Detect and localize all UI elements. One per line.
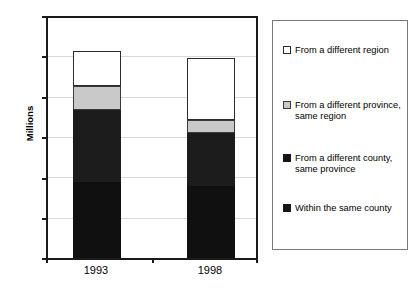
x-tick-label-1998: 1998 <box>180 264 240 276</box>
bar-1998-segment-within-same-county[interactable] <box>187 186 235 258</box>
plot-area <box>46 16 258 260</box>
bar-1993-segment-different-province[interactable] <box>73 86 121 110</box>
x-tick-mark-left <box>46 258 48 263</box>
bar-1998-segment-different-province[interactable] <box>187 120 235 133</box>
chart-root: 60 50 40 30 20 10 0 Millions <box>0 0 415 288</box>
plot-inner <box>48 18 256 258</box>
bar-1998[interactable] <box>187 58 235 258</box>
bar-1993-segment-within-same-county[interactable] <box>73 182 121 258</box>
legend: From a different region From a different… <box>272 20 408 250</box>
legend-swatch-white-icon <box>283 46 291 54</box>
legend-item-different-region[interactable]: From a different region <box>283 45 405 56</box>
legend-item-different-province[interactable]: From a different province, same region <box>283 100 405 122</box>
bar-1998-segment-different-county[interactable] <box>187 133 235 186</box>
bar-1993-segment-different-region[interactable] <box>73 51 121 86</box>
bar-1993-segment-different-county[interactable] <box>73 110 121 182</box>
legend-label-different-region: From a different region <box>295 45 389 56</box>
legend-label-within-same-county: Within the same county <box>295 203 392 214</box>
legend-label-different-county: From a different county, same province <box>295 153 405 175</box>
legend-label-different-province: From a different province, same region <box>295 100 405 122</box>
x-tick-label-1993: 1993 <box>66 264 126 276</box>
legend-item-different-county[interactable]: From a different county, same province <box>283 153 405 175</box>
legend-swatch-gray-icon <box>283 101 291 109</box>
legend-swatch-dark-within-icon <box>283 204 291 212</box>
y-axis-title: Millions <box>24 89 35 159</box>
legend-swatch-dark-county-icon <box>283 154 291 162</box>
bar-1998-segment-different-region[interactable] <box>187 58 235 120</box>
legend-item-within-same-county[interactable]: Within the same county <box>283 203 405 214</box>
x-tick-mark-right <box>256 258 258 263</box>
x-tick-mark-middle <box>152 258 154 263</box>
bar-1993[interactable] <box>73 51 121 258</box>
